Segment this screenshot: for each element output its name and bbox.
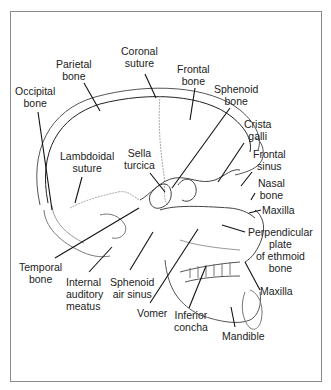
label-line: concha xyxy=(174,321,208,333)
label-line: Sphenoid xyxy=(214,83,258,95)
label-line: plate xyxy=(248,238,313,250)
label-line: suture xyxy=(121,57,158,69)
label-line: Sphenoid xyxy=(110,276,154,288)
label-line: meatus xyxy=(66,300,103,312)
label-temporal-bone: Temporalbone xyxy=(19,261,62,285)
label-line: air sinus xyxy=(110,288,154,300)
label-perpendicular-plate: Perpendicularplateof ethmoidbone xyxy=(248,226,313,274)
label-line: Frontal xyxy=(253,148,286,160)
label-parietal-bone: Parietalbone xyxy=(56,58,92,82)
label-line: Parietal xyxy=(56,58,92,70)
label-line: bone xyxy=(214,95,258,107)
label-line: suture xyxy=(60,162,114,174)
label-sphenoid-bone: Sphenoidbone xyxy=(214,83,258,107)
label-line: of ethmoid xyxy=(248,250,313,262)
label-sphenoid-air-sinus: Sphenoidair sinus xyxy=(110,276,154,300)
label-line: Frontal xyxy=(177,63,210,75)
label-occipital-bone: Occipitalbone xyxy=(15,85,55,109)
label-line: Coronal xyxy=(121,45,158,57)
label-inferior-concha: Inferiorconcha xyxy=(174,309,208,333)
label-line: bone xyxy=(258,189,285,201)
label-line: bone xyxy=(56,70,92,82)
label-line: Internal xyxy=(66,276,103,288)
label-line: turcica xyxy=(124,159,155,171)
label-line: Vomer xyxy=(137,307,167,319)
label-line: Crista xyxy=(244,118,271,130)
label-line: Occipital xyxy=(15,85,55,97)
label-frontal-sinus: Frontalsinus xyxy=(253,148,286,172)
label-nasal-bone: Nasalbone xyxy=(258,177,285,201)
label-line: Maxilla xyxy=(262,204,295,216)
label-maxilla-lower: Maxilla xyxy=(260,285,293,297)
label-crista-galli: Cristagalli xyxy=(244,118,271,142)
label-maxilla-upper: Maxilla xyxy=(262,204,295,216)
label-frontal-bone: Frontalbone xyxy=(177,63,210,87)
label-internal-auditory-meatus: Internalauditorymeatus xyxy=(66,276,103,312)
label-line: auditory xyxy=(66,288,103,300)
label-line: Maxilla xyxy=(260,285,293,297)
label-lambdoidal-suture: Lambdoidalsuture xyxy=(60,150,114,174)
label-sella-turcica: Sellaturcica xyxy=(124,147,155,171)
label-line: Perpendicular xyxy=(248,226,313,238)
label-line: bone xyxy=(248,262,313,274)
label-line: Nasal xyxy=(258,177,285,189)
label-coronal-suture: Coronalsuture xyxy=(121,45,158,69)
label-mandible: Mandible xyxy=(222,330,265,342)
label-line: Temporal xyxy=(19,261,62,273)
label-line: bone xyxy=(15,97,55,109)
label-line: bone xyxy=(177,75,210,87)
label-line: Sella xyxy=(124,147,155,159)
label-vomer: Vomer xyxy=(137,307,167,319)
label-line: bone xyxy=(19,273,62,285)
label-line: galli xyxy=(244,130,271,142)
label-line: Lambdoidal xyxy=(60,150,114,162)
label-line: Mandible xyxy=(222,330,265,342)
label-line: sinus xyxy=(253,160,286,172)
label-line: Inferior xyxy=(174,309,208,321)
